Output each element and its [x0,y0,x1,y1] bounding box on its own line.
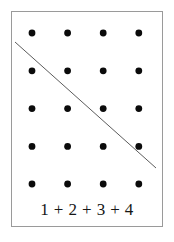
caption-sum-expression: 1 + 2 + 3 + 4 [11,200,163,220]
figure-container: 1 + 2 + 3 + 4 [0,0,174,242]
diagonal-divider-icon [15,42,156,168]
